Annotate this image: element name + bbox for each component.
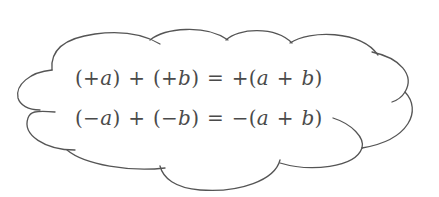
equation-text: (+a) + (+b) = +(a + b) (75, 66, 323, 90)
cloud-shape (0, 0, 439, 197)
equation-negative-sum: (−a) + (−b) = −(a + b) (75, 106, 323, 130)
equation-positive-sum: (+a) + (+b) = +(a + b) (75, 66, 323, 90)
equation-text: (−a) + (−b) = −(a + b) (75, 106, 323, 130)
